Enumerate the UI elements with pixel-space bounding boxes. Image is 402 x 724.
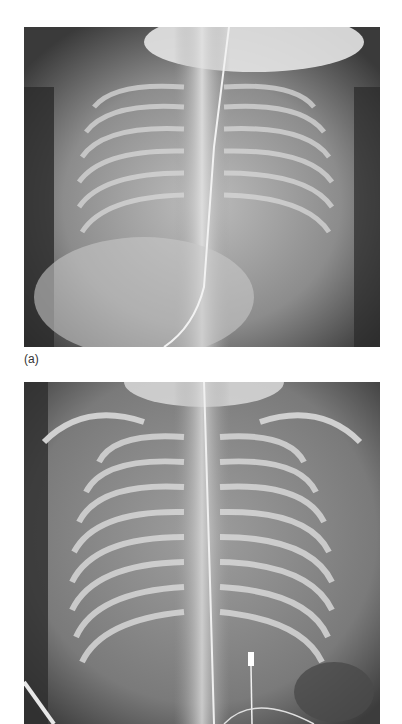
xray-image-icon [24,382,380,724]
panel-label-a: (a) [24,352,39,366]
xray-image-a [24,27,380,347]
xray-image-b [24,382,380,724]
xray-image-icon [24,27,380,347]
